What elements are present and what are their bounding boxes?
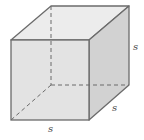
cube-diagram: s s s bbox=[0, 0, 144, 140]
label-height: s bbox=[133, 41, 138, 52]
cube-front-face bbox=[11, 40, 89, 120]
label-depth: s bbox=[112, 102, 117, 113]
label-width: s bbox=[48, 123, 53, 134]
